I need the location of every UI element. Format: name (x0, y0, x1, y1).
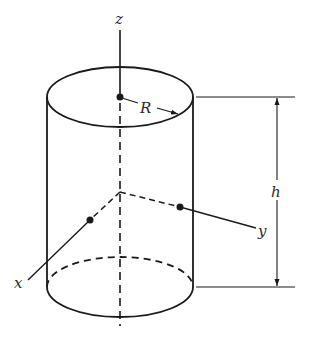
x-axis-point (87, 217, 94, 224)
y-axis-dashed (120, 192, 180, 207)
y-axis-point (177, 204, 184, 211)
top-center-point (117, 94, 124, 101)
radius-label: R (139, 99, 151, 117)
y-axis-solid (180, 207, 256, 228)
x-axis-solid (28, 220, 90, 280)
radius-arrow-start (122, 98, 138, 103)
y-axis-label: y (257, 222, 267, 240)
x-axis-dashed (90, 192, 120, 220)
height-label: h (271, 183, 281, 201)
z-axis-label: z (114, 10, 123, 28)
cylinder-diagram: R x y z h (0, 0, 309, 340)
radius-arrow (157, 108, 178, 114)
x-axis-label: x (14, 274, 23, 292)
